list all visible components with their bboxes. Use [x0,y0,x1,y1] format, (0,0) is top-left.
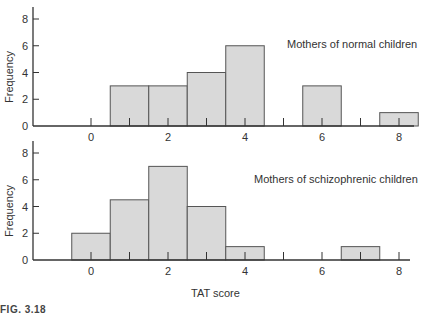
y-tick-label: 6 [22,40,28,52]
y-tick-label: 4 [22,201,28,213]
top-chart-title: Mothers of normal children [287,38,417,50]
x-tick-label: 2 [165,131,171,143]
x-tick-label: 8 [396,265,402,277]
histogram-bar [226,46,265,126]
x-tick-label: 0 [88,265,94,277]
y-tick-label: 4 [22,67,28,79]
histogram-bar [187,207,226,261]
y-tick-label: 2 [22,227,28,239]
figure-label: FIG. 3.18 [0,304,46,315]
x-tick-label: 8 [396,131,402,143]
x-tick-label: 6 [319,131,325,143]
y-tick-label: 8 [22,147,28,159]
x-tick-label: 4 [242,265,248,277]
histogram-bar [110,200,149,260]
x-tick-label: 0 [88,131,94,143]
bottom-chart-title: Mothers of schizophrenic children [254,173,418,185]
y-tick-label: 6 [22,174,28,186]
y-tick-label: 0 [22,120,28,132]
histogram-bar [187,73,226,127]
x-tick-label: 2 [165,265,171,277]
y-tick-label: 8 [22,13,28,25]
bottom-y-axis-label: Frequency [3,185,15,237]
x-axis-label: TAT score [191,287,240,299]
x-tick-label: 4 [242,131,248,143]
y-tick-label: 0 [22,254,28,266]
histogram-bar [149,166,188,260]
x-tick-label: 6 [319,265,325,277]
top-y-axis-label: Frequency [3,51,15,103]
y-tick-label: 2 [22,93,28,105]
